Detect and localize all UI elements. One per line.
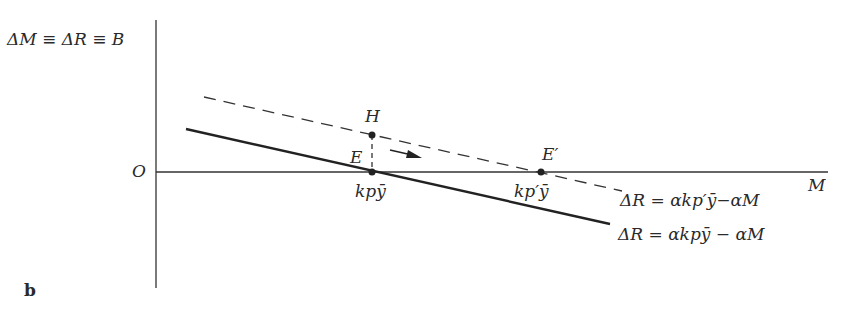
diagram-canvas: ΔM ≡ ΔR ≡ B O M H E kpȳ E′ kp′ȳ ΔR = αkp…	[0, 0, 852, 310]
point-H	[369, 132, 376, 139]
label-H: H	[364, 106, 381, 126]
equation-original: ΔR = αkpȳ − αM	[617, 224, 765, 244]
y-axis-label: ΔM ≡ ΔR ≡ B	[6, 29, 124, 49]
origin-label: O	[132, 161, 146, 181]
shifted-dashed-line	[204, 97, 622, 191]
label-E: E	[349, 147, 363, 167]
point-E	[369, 169, 376, 176]
label-kpy: kpȳ	[355, 181, 386, 201]
shift-arrow-icon	[390, 150, 422, 158]
label-kp-prime-y: kp′ȳ	[514, 181, 549, 201]
label-E-prime: E′	[541, 144, 558, 164]
panel-label: b	[24, 280, 36, 300]
x-axis-label: M	[807, 175, 826, 195]
point-E-prime	[538, 169, 545, 176]
equation-shifted: ΔR = αkp′ȳ−αM	[619, 190, 760, 210]
